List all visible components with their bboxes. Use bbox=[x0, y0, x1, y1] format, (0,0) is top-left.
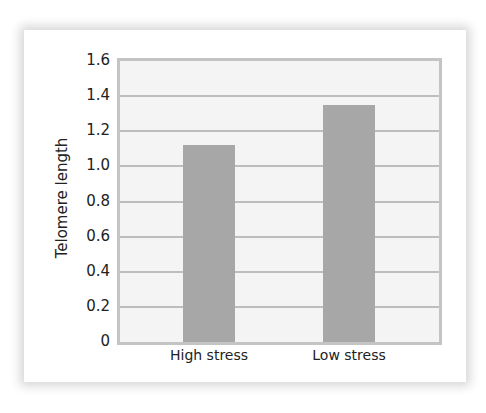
x-tick-label: Low stress bbox=[312, 347, 385, 363]
y-tick-label: 0 bbox=[100, 333, 110, 349]
bar-high-stress bbox=[183, 145, 235, 342]
gridline bbox=[120, 271, 439, 273]
y-tick-label: 0.4 bbox=[86, 263, 110, 279]
gridline bbox=[120, 95, 439, 97]
plot-area bbox=[117, 58, 442, 345]
y-tick-label: 0.6 bbox=[86, 228, 110, 244]
gridline bbox=[120, 130, 439, 132]
x-tick-label: High stress bbox=[170, 347, 248, 363]
y-tick-label: 1.4 bbox=[86, 87, 110, 103]
gridline bbox=[120, 236, 439, 238]
y-tick-label: 1.6 bbox=[86, 52, 110, 68]
y-tick-label: 1.2 bbox=[86, 122, 110, 138]
gridline bbox=[120, 201, 439, 203]
y-tick-label: 1.0 bbox=[86, 157, 110, 173]
bar-low-stress bbox=[323, 105, 375, 342]
y-tick-label: 0.2 bbox=[86, 298, 110, 314]
gridline bbox=[120, 165, 439, 167]
y-tick-label: 0.8 bbox=[86, 193, 110, 209]
y-axis-label: Telomere length bbox=[53, 138, 71, 259]
gridline bbox=[120, 306, 439, 308]
